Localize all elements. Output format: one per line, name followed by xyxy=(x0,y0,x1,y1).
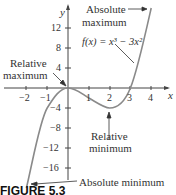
rel-min-label-line1: Relative xyxy=(91,130,128,142)
x-tick-label: 3 xyxy=(127,93,132,103)
y-tick-label: 8 xyxy=(56,43,61,53)
abs-max-label-line2: maximum xyxy=(82,16,127,28)
x-tick-label: −2 xyxy=(19,93,30,103)
function-label: f(x) = x³ − 3x² xyxy=(82,36,142,48)
y-tick-label: −8 xyxy=(50,123,61,133)
x-tick-label: 1 xyxy=(86,93,91,103)
rel-min-label-line2: minimum xyxy=(89,142,132,154)
y-axis-label: y xyxy=(60,6,65,18)
y-tick-label: −12 xyxy=(43,143,59,153)
x-tick-label: 2 xyxy=(107,93,112,103)
rel-min-arrowhead-icon xyxy=(107,112,111,118)
x-tick-label: 4 xyxy=(148,93,153,103)
rel-max-label-line1: Relative xyxy=(10,57,47,69)
y-tick-label: −4 xyxy=(50,103,61,113)
x-axis-label: x xyxy=(168,89,173,101)
figure-caption: FIGURE 5.3 xyxy=(0,184,65,195)
abs-min-label: Absolute minimum xyxy=(79,176,164,188)
y-tick-label: −16 xyxy=(43,163,59,173)
y-tick-label: 4 xyxy=(56,63,61,73)
abs-max-arrowhead-icon xyxy=(142,7,147,11)
rel-max-label-line2: maximum xyxy=(3,69,48,81)
y-axis-arrow-icon xyxy=(66,4,70,10)
abs-max-label-line1: Absolute xyxy=(86,3,126,15)
y-tick-label: 12 xyxy=(51,23,61,33)
